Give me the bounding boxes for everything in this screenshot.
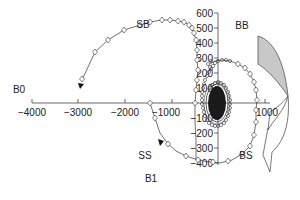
y-tick-label: −100 [190, 113, 213, 124]
trajectory-sb-arrow-icon [78, 83, 84, 89]
y-tick-label: 500 [196, 23, 213, 34]
label-b0: B0 [13, 84, 26, 95]
label-bb: BB [235, 20, 249, 31]
y-tick-label: −300 [190, 143, 213, 154]
label-bs: BS [239, 150, 253, 161]
y-tick-label: −400 [190, 158, 213, 169]
x-tick-label: 1000 [256, 107, 279, 118]
label-sb: SB [136, 19, 150, 30]
y-tick-label: 600 [196, 8, 213, 19]
x-tick-label: −3000 [64, 107, 93, 118]
trajectory-ss-arrow-icon [158, 139, 164, 146]
x-tick-label: −2000 [111, 107, 140, 118]
x-tick-labels: −4000 −3000 −2000 −1000 1000 [18, 107, 279, 118]
trajectory-sb-markers [80, 17, 201, 106]
phase-plot: −4000 −3000 −2000 −1000 1000 600 500 400… [0, 0, 300, 200]
y-tick-label: 400 [196, 38, 213, 49]
spiral-dense-core [208, 86, 226, 120]
x-tick-label: −4000 [18, 107, 47, 118]
label-b1: B1 [145, 173, 158, 184]
label-ss: SS [138, 150, 152, 161]
y-tick-label: −200 [190, 128, 213, 139]
shaded-region-bb [258, 36, 288, 96]
trajectory-sb-line [82, 20, 198, 160]
